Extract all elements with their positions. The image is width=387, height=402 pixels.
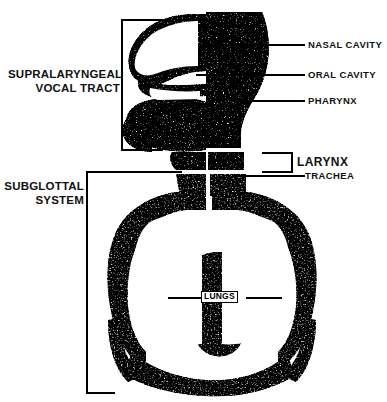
right-lung-field	[222, 212, 290, 345]
lungs-label: LUNGS	[201, 291, 238, 303]
larynx-stipple	[170, 152, 244, 170]
anatomy-diagram: SUPRALARYNGEAL VOCAL TRACT SUBGLOTTAL SY…	[0, 0, 387, 402]
larynx-label: LARYNX	[297, 155, 348, 169]
supralaryngeal-label-line2: VOCAL TRACT	[8, 82, 120, 96]
left-lung-field	[134, 212, 202, 345]
subglottal-label-line1: SUBGLOTTAL	[0, 180, 84, 194]
oral-cavity-label: ORAL CAVITY	[308, 69, 376, 80]
subglottal-group-label: SUBGLOTTAL SYSTEM	[0, 180, 84, 207]
trachea-label: TRACHEA	[305, 170, 354, 181]
subglottal-label-line2: SYSTEM	[0, 194, 84, 208]
pharynx-label: PHARYNX	[308, 95, 357, 106]
nasal-cavity-label: NASAL CAVITY	[308, 39, 382, 50]
supralaryngeal-group-label: SUPRALARYNGEAL VOCAL TRACT	[8, 68, 120, 95]
supralaryngeal-label-line1: SUPRALARYNGEAL	[8, 68, 120, 82]
larynx-bracket	[262, 153, 292, 172]
